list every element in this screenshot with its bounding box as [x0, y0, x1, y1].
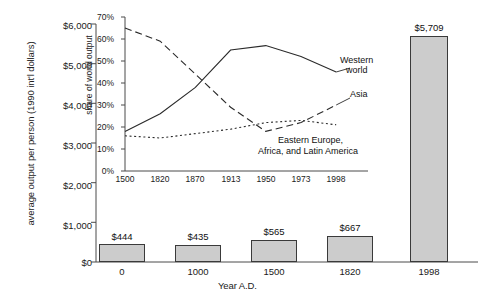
- main-xtick-1500: 1500: [244, 266, 304, 277]
- series-label-asia: Asia: [350, 89, 368, 100]
- series-label-other-line1: Eastern Europe,: [278, 135, 343, 146]
- bar-year-1500: [251, 240, 297, 262]
- bar-year-1000: [175, 245, 221, 262]
- main-xtick-1998: 1998: [399, 266, 459, 277]
- inset-plot: [78, 8, 390, 190]
- series-label-other-line2: Africa, and Latin America: [258, 146, 358, 157]
- bar-year-0: [99, 244, 145, 262]
- bar-value-1998: $5,709: [394, 22, 464, 33]
- main-xtick-1820: 1820: [320, 266, 380, 277]
- inset-chart: share of world output 70% 60% 50% 40% 30…: [78, 8, 390, 190]
- main-xtick-1000: 1000: [168, 266, 228, 277]
- inset-xtick-1820: 1820: [140, 174, 180, 184]
- bar-value-0: $444: [87, 231, 157, 242]
- main-xtick-0: 0: [92, 266, 152, 277]
- inset-xtick-1950: 1950: [246, 174, 286, 184]
- series-label-western-world-line2: world: [346, 65, 368, 76]
- bar-value-1820: $667: [315, 222, 385, 233]
- figure-container: average output per person (1990 int'l do…: [0, 0, 487, 302]
- bar-value-1000: $435: [163, 231, 233, 242]
- inset-xtick-1870: 1870: [175, 174, 215, 184]
- inset-xtick-1500: 1500: [105, 174, 145, 184]
- series-western-world-line: [125, 46, 336, 132]
- bar-year-1820: [327, 236, 373, 263]
- inset-xtick-1973: 1973: [281, 174, 321, 184]
- bar-year-1998: [410, 36, 448, 262]
- bar-value-1500: $565: [239, 226, 309, 237]
- inset-xtick-1913: 1913: [211, 174, 251, 184]
- inset-xtick-1998: 1998: [316, 174, 356, 184]
